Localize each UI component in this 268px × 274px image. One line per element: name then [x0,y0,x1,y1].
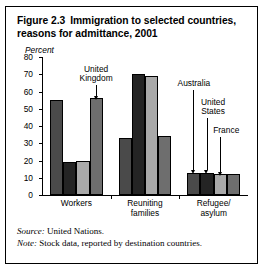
figure-number: Figure 2.3 [17,15,65,26]
figure-frame: Figure 2.3Immigration to selected countr… [5,6,258,264]
annotation-label-france: France [200,126,252,135]
y-tick-label-10: 10 [24,174,33,182]
figure-notes: Source: United Nations. Note: Stock data… [17,226,249,249]
y-tick-label-80: 80 [24,53,33,61]
annotation-leader-line-france [220,137,221,172]
note-text: Stock data, reported by destination coun… [37,238,202,248]
annotation-label-united-states: United States [185,98,241,117]
source-line: Source: United Nations. [17,226,249,238]
bar-united-kingdom-group-1 [158,136,171,195]
bar-united-states-group-0 [63,162,76,195]
bar-united-states-group-2 [200,173,213,195]
annotation-arrowhead-france [218,172,222,176]
y-tick-label-50: 50 [24,105,33,113]
annotation-arrowhead-united-kingdom [94,96,98,100]
y-tick-label-30: 30 [24,139,33,147]
annotation-arrowhead-australia [191,170,195,174]
annotation-arrowhead-united-states [204,170,208,174]
bar-united-kingdom-group-0 [90,98,103,195]
y-tick-80: 80 [39,57,43,58]
source-label: Source: [17,226,45,236]
y-tick-70: 70 [39,74,43,75]
y-tick-20: 20 [39,161,43,162]
y-tick-50: 50 [39,109,43,110]
plot-area: 01020304050607080 United KingdomAustrali… [42,57,248,195]
bar-united-kingdom-group-2 [227,174,240,195]
chart-area: Percent 01020304050607080 United Kingdom… [6,45,259,217]
bar-france-group-1 [145,76,158,195]
bar-france-group-0 [76,161,89,196]
annotation-label-united-kingdom: United Kingdom [66,65,126,84]
annotation-label-australia: Australia [158,79,230,88]
y-tick-label-40: 40 [24,122,33,130]
note-line: Note: Stock data, reported by destinatio… [17,238,249,250]
annotation-leader-line-united-kingdom [96,85,97,96]
y-tick-10: 10 [39,178,43,179]
y-tick-label-70: 70 [24,70,33,78]
y-tick-40: 40 [39,126,43,127]
x-axis-line [42,195,248,196]
y-tick-label-0: 0 [28,191,33,199]
y-tick-label-20: 20 [24,156,33,164]
bar-united-states-group-1 [132,74,145,195]
bar-australia-group-2 [187,173,200,195]
note-label: Note: [17,238,37,248]
bar-australia-group-0 [50,100,63,195]
bar-france-group-2 [214,174,227,195]
y-tick-label-60: 60 [24,87,33,95]
bar-australia-group-1 [119,138,132,195]
y-axis-line [42,57,43,195]
category-label-2: Refugee/ asylum [174,199,254,218]
y-tick-0: 0 [39,195,43,196]
source-text: United Nations. [45,226,104,236]
y-tick-30: 30 [39,143,43,144]
y-tick-60: 60 [39,92,43,93]
figure-title: Figure 2.3Immigration to selected countr… [17,15,247,40]
